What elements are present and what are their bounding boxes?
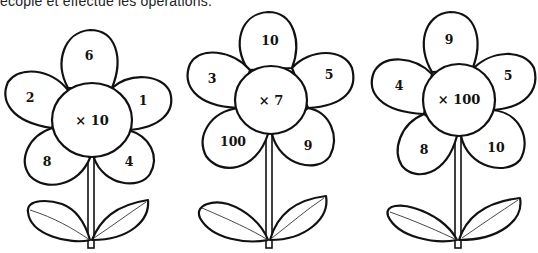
flower-1-center: × 10 <box>52 83 132 157</box>
flower-1-petal-upper-right-number: 1 <box>139 93 148 108</box>
flower-3-petal-upper-right-number: 5 <box>504 68 513 83</box>
flower-1-petal-top-number: 6 <box>85 48 94 63</box>
flower-3-left-leaf <box>387 206 457 242</box>
flower-3-petal-lower-right-number: 10 <box>487 140 505 155</box>
flower-3-operation: × 100 <box>438 92 481 107</box>
flower-2-petal-top: 10 <box>240 12 296 70</box>
flower-3-stem <box>455 134 461 248</box>
flower-2: 10 3 5 100 9 × 7 <box>188 12 354 248</box>
flower-1-petal-top: 6 <box>62 30 118 88</box>
flower-3-petal-lower-left-number: 8 <box>420 142 429 157</box>
flower-2-center: × 7 <box>235 66 307 134</box>
flower-2-petal-lower-right-number: 9 <box>304 138 313 153</box>
flower-2-petal-upper-right-number: 5 <box>325 67 334 82</box>
flower-2-petal-lower-left-number: 100 <box>220 134 246 149</box>
flower-2-stem <box>266 132 272 248</box>
flower-2-petal-top-number: 10 <box>261 33 279 48</box>
flower-3-petal-upper-left-number: 4 <box>395 78 404 93</box>
flower-1: 6 2 1 8 4 × 10 <box>5 30 171 248</box>
flower-3-leaves <box>387 198 520 241</box>
flower-2-leaves <box>199 196 327 241</box>
flower-1-left-leaf <box>28 201 90 241</box>
flower-1-petal-upper-left-number: 2 <box>26 90 35 105</box>
flower-3-center: × 100 <box>423 64 495 136</box>
flower-2-petal-upper-left-number: 3 <box>208 71 217 86</box>
flower-2-operation: × 7 <box>259 93 283 108</box>
flower-1-petal-lower-left-number: 8 <box>43 154 52 169</box>
flower-1-petal-lower-right-number: 4 <box>125 154 134 169</box>
flower-3-petal-top-number: 9 <box>445 32 454 47</box>
flower-3: 9 4 5 8 10 × 100 <box>372 12 535 248</box>
flower-1-operation: × 10 <box>75 113 109 128</box>
flower-3-petal-top: 9 <box>424 12 478 72</box>
